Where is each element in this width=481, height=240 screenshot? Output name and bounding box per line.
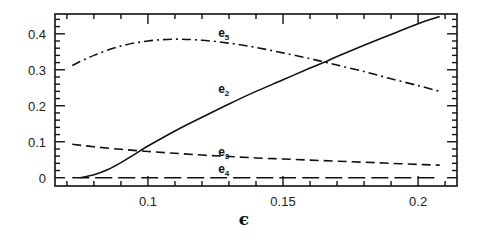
series-curves [72, 17, 439, 178]
plot-frame [55, 14, 457, 186]
series-label-e5: e5 [218, 26, 230, 42]
series-label-subscript: 3 [225, 152, 230, 161]
y-tick-label: 0.3 [28, 63, 46, 78]
series-label-subscript: 2 [225, 89, 230, 98]
axis-ticks [55, 14, 457, 186]
y-tick-label: 0 [39, 171, 46, 186]
series-label-subscript: 5 [225, 33, 230, 42]
x-tick-label: 0.1 [139, 194, 157, 209]
series-label-e4: e4 [218, 162, 230, 178]
y-tick-label: 0.2 [28, 99, 46, 114]
series-labels: e2e5e3e4 [218, 26, 230, 178]
series-label-e3: e3 [218, 145, 230, 161]
series-label-subscript: 4 [225, 169, 230, 178]
series-line-e3 [72, 144, 439, 165]
chart: 0.10.150.200.10.20.30.4 e2e5e3e4 ϵ [0, 0, 481, 240]
y-tick-label: 0.1 [28, 135, 46, 150]
series-label-e2: e2 [218, 82, 230, 98]
x-tick-label: 0.2 [409, 194, 427, 209]
y-tick-label: 0.4 [28, 27, 46, 42]
series-line-e2 [80, 17, 439, 178]
x-tick-label: 0.15 [270, 194, 295, 209]
axis-tick-labels: 0.10.150.200.10.20.30.4 [28, 27, 427, 209]
x-axis-label: ϵ [239, 209, 249, 229]
series-line-e5 [72, 39, 439, 91]
